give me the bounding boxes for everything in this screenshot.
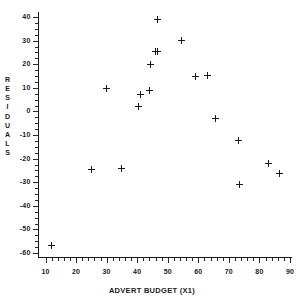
x-axis-minor-tick	[143, 258, 144, 261]
y-axis-line	[38, 12, 39, 258]
data-point	[178, 37, 185, 44]
y-axis-major-tick	[33, 229, 38, 230]
y-axis-minor-tick	[35, 117, 38, 118]
x-axis-minor-tick	[284, 258, 285, 261]
y-axis-tick-label: 40	[8, 13, 31, 20]
data-point	[236, 181, 243, 188]
y-axis-tick-label: -60	[8, 249, 31, 256]
y-axis-minor-tick	[35, 176, 38, 177]
x-axis-minor-tick	[186, 258, 187, 261]
y-axis-minor-tick	[35, 123, 38, 124]
x-axis-minor-tick	[88, 258, 89, 261]
x-axis-minor-tick	[58, 258, 59, 261]
data-point	[137, 91, 144, 98]
y-axis-minor-tick	[35, 129, 38, 130]
y-axis-minor-tick	[35, 218, 38, 219]
x-axis-minor-tick	[204, 258, 205, 261]
x-axis-minor-tick	[162, 258, 163, 261]
x-axis-minor-tick	[52, 258, 53, 261]
data-point	[88, 166, 95, 173]
y-axis-minor-tick	[35, 165, 38, 166]
y-axis-major-tick	[33, 64, 38, 65]
data-point	[103, 85, 110, 92]
x-axis-minor-tick	[272, 258, 273, 261]
x-axis-tick-label: 60	[186, 268, 210, 275]
x-axis-title: ADVERT BUDGET (X1)	[0, 286, 304, 295]
data-point	[147, 61, 154, 68]
y-axis-minor-tick	[35, 106, 38, 107]
x-axis-minor-tick	[211, 258, 212, 261]
y-axis-minor-tick	[35, 147, 38, 148]
x-axis-minor-tick	[131, 258, 132, 261]
y-axis-minor-tick	[35, 235, 38, 236]
x-axis-minor-tick	[253, 258, 254, 261]
x-axis-minor-tick	[266, 258, 267, 261]
y-axis-minor-tick	[35, 52, 38, 53]
x-axis-minor-tick	[192, 258, 193, 261]
data-point	[265, 160, 272, 167]
data-point	[212, 115, 219, 122]
y-axis-minor-tick	[35, 35, 38, 36]
y-axis-minor-tick	[35, 58, 38, 59]
y-axis-tick-label: -40	[8, 202, 31, 209]
x-axis-minor-tick	[241, 258, 242, 261]
y-axis-tick-label: 20	[8, 60, 31, 67]
y-axis-tick-label: -30	[8, 178, 31, 185]
y-axis-minor-tick	[35, 170, 38, 171]
y-axis-minor-tick	[35, 188, 38, 189]
x-axis-tick-label: 20	[64, 268, 88, 275]
x-axis-minor-tick	[94, 258, 95, 261]
y-axis-title-letter: U	[2, 121, 13, 130]
x-axis-minor-tick	[217, 258, 218, 261]
y-axis-major-tick	[33, 88, 38, 89]
x-axis-tick-label: 80	[247, 268, 271, 275]
x-axis-major-tick	[168, 258, 169, 263]
residual-scatter-plot: RESIDUALS 403020100-10-20-30-40-50-60 10…	[0, 0, 304, 302]
data-point	[135, 103, 142, 110]
x-axis-major-tick	[229, 258, 230, 263]
y-axis-minor-tick	[35, 29, 38, 30]
x-axis-tick-label: 90	[278, 268, 302, 275]
y-axis-minor-tick	[35, 76, 38, 77]
x-axis-minor-tick	[174, 258, 175, 261]
y-axis-major-tick	[33, 111, 38, 112]
y-axis-minor-tick	[35, 212, 38, 213]
y-axis-tick-label: 30	[8, 37, 31, 44]
x-axis-major-tick	[107, 258, 108, 263]
y-axis-major-tick	[33, 159, 38, 160]
y-axis-minor-tick	[35, 247, 38, 248]
x-axis-tick-label: 70	[217, 268, 241, 275]
y-axis-tick-label: -10	[8, 131, 31, 138]
x-axis-tick-label: 40	[125, 268, 149, 275]
x-axis-major-tick	[290, 258, 291, 263]
x-axis-minor-tick	[101, 258, 102, 261]
y-axis-title-letter: L	[2, 139, 13, 148]
y-axis-major-tick	[33, 206, 38, 207]
x-axis-minor-tick	[156, 258, 157, 261]
data-point	[118, 165, 125, 172]
data-point	[154, 48, 161, 55]
x-axis-major-tick	[76, 258, 77, 263]
data-point	[204, 72, 211, 79]
data-point	[146, 87, 153, 94]
x-axis-major-tick	[137, 258, 138, 263]
x-axis-major-tick	[46, 258, 47, 263]
x-axis-minor-tick	[64, 258, 65, 261]
y-axis-minor-tick	[35, 23, 38, 24]
y-axis-major-tick	[33, 41, 38, 42]
data-point	[276, 170, 283, 177]
data-point	[154, 16, 161, 23]
y-axis-minor-tick	[35, 224, 38, 225]
x-axis-major-tick	[198, 258, 199, 263]
x-axis-tick-label: 30	[95, 268, 119, 275]
x-axis-minor-tick	[125, 258, 126, 261]
x-axis-minor-tick	[113, 258, 114, 261]
x-axis-tick-label: 10	[34, 268, 58, 275]
y-axis-tick-label: -20	[8, 155, 31, 162]
x-axis-minor-tick	[70, 258, 71, 261]
data-point	[235, 137, 242, 144]
y-axis-minor-tick	[35, 47, 38, 48]
y-axis-minor-tick	[35, 82, 38, 83]
y-axis-minor-tick	[35, 200, 38, 201]
y-axis-title-letter: S	[2, 93, 13, 102]
